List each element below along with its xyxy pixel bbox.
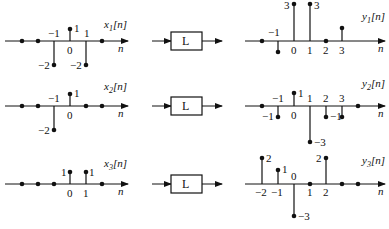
value-label: 3 [314, 0, 320, 11]
tick-label: 2 [323, 92, 329, 104]
tick-label: 3 [339, 92, 345, 104]
input-plot-x3: 0 1 1 1 n x3[n] [5, 157, 128, 199]
value-label: 2 [266, 152, 272, 164]
value-label: 1 [298, 87, 304, 99]
value-label: 3 [284, 0, 290, 11]
value-label: 1 [74, 87, 80, 99]
value-label: −3 [298, 210, 310, 222]
value-label: −3 [314, 136, 326, 148]
tick-label: 0 [67, 44, 73, 56]
tick-label: 1 [307, 44, 313, 56]
value-label: −2 [38, 124, 50, 136]
tick-label: 0 [291, 170, 297, 182]
value-label: 1 [89, 166, 95, 178]
lti-system-diagram: −1 0 1 1 −2 −2 n x1[n] L −1 0 1 2 [0, 0, 389, 229]
signal-title: y3[n] [361, 154, 385, 169]
axis-label: n [118, 107, 124, 119]
tick-label: 1 [84, 27, 90, 39]
row-3: 0 1 1 1 n x3[n] L −2 −1 0 1 2 2 [5, 152, 385, 222]
axis-label: n [118, 42, 124, 54]
tick-label: 0 [67, 109, 73, 121]
value-label: −1 [262, 110, 274, 122]
system-label: L [182, 34, 189, 48]
system-block-3: L [152, 175, 222, 193]
system-block-2: L [152, 97, 222, 115]
value-label: 1 [74, 22, 80, 34]
tick-label: −1 [268, 26, 280, 38]
signal-title: y1[n] [361, 10, 385, 25]
value-label: 2 [316, 152, 322, 164]
input-plot-x2: −1 0 1 −2 n x2[n] [5, 80, 128, 136]
tick-label: −2 [255, 186, 267, 198]
tick-label: −1 [48, 27, 60, 39]
tick-label: 2 [323, 186, 329, 198]
axis-label: n [378, 185, 384, 197]
tick-label: 1 [307, 92, 313, 104]
value-label: −2 [38, 59, 50, 71]
tick-label: 1 [307, 186, 313, 198]
axis-label: n [118, 185, 124, 197]
axis-label: n [378, 107, 384, 119]
output-plot-y2: −1 0 1 2 3 1 −1 −1 −3 n y2[n] [245, 77, 385, 148]
tick-label: 1 [83, 187, 89, 199]
row-2: −1 0 1 −2 n x2[n] L −1 0 1 2 3 [5, 77, 385, 148]
tick-label: 0 [291, 44, 297, 56]
tick-label: 3 [339, 44, 345, 56]
signal-title: x2[n] [103, 80, 127, 95]
system-block-1: L [152, 32, 222, 50]
signal-title: x1[n] [103, 18, 127, 33]
output-plot-y1: −1 0 1 2 3 3 3 n y1[n] [245, 0, 385, 56]
signal-title: y2[n] [361, 77, 385, 92]
output-plot-y3: −2 −1 0 1 2 2 1 2 −3 n y3[n] [245, 152, 385, 222]
tick-label: 0 [67, 187, 73, 199]
value-label: 1 [282, 163, 288, 175]
axis-label: n [378, 42, 384, 54]
tick-label: 0 [291, 109, 297, 121]
value-label: −1 [330, 110, 342, 122]
signal-title: x3[n] [103, 157, 127, 172]
tick-label: −1 [272, 92, 284, 104]
tick-label: −1 [271, 186, 283, 198]
value-label: −2 [70, 59, 82, 71]
input-plot-x1: −1 0 1 1 −2 −2 n x1[n] [5, 18, 128, 71]
system-label: L [182, 99, 189, 113]
tick-label: −1 [48, 92, 60, 104]
row-1: −1 0 1 1 −2 −2 n x1[n] L −1 0 1 2 [5, 0, 385, 71]
system-label: L [182, 177, 189, 191]
value-label: 1 [61, 166, 67, 178]
tick-label: 2 [323, 44, 329, 56]
